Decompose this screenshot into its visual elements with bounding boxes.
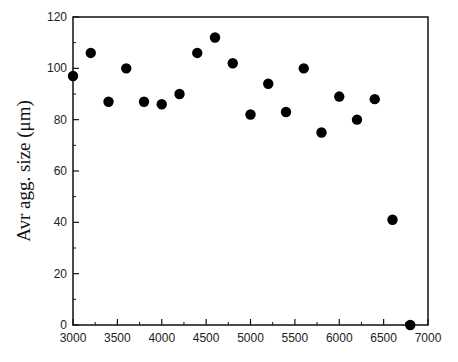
data-point (157, 99, 167, 109)
y-tick-label: 80 (54, 113, 68, 127)
data-point (387, 215, 397, 225)
plot-axes: 3000350040004500500055006000650070000204… (47, 10, 442, 345)
data-point (370, 94, 380, 104)
x-tick-label: 4500 (193, 331, 220, 345)
y-tick-label: 40 (54, 215, 68, 229)
data-point (68, 71, 78, 81)
x-tick-label: 6000 (326, 331, 353, 345)
data-point (281, 107, 291, 117)
y-tick-label: 20 (54, 267, 68, 281)
x-tick-label: 3000 (60, 331, 87, 345)
data-point (263, 79, 273, 89)
x-tick-label: 3500 (104, 331, 131, 345)
data-point (405, 320, 415, 330)
y-tick-label: 100 (47, 61, 67, 75)
data-point (139, 97, 149, 107)
data-point (174, 89, 184, 99)
y-tick-label: 60 (54, 164, 68, 178)
data-point (121, 63, 131, 73)
x-tick-label: 5000 (237, 331, 264, 345)
y-tick-label: 120 (47, 10, 67, 24)
x-tick-label: 7000 (415, 331, 442, 345)
x-tick-label: 4000 (148, 331, 175, 345)
data-point (228, 58, 238, 68)
scatter-chart: 3000350040004500500055006000650070000204… (0, 0, 458, 362)
data-point (86, 48, 96, 58)
data-point (245, 109, 255, 119)
y-axis-title: Avr agg. size (μm) (13, 100, 35, 242)
data-point (192, 48, 202, 58)
data-point (103, 97, 113, 107)
x-tick-label: 6500 (370, 331, 397, 345)
data-point (352, 114, 362, 124)
data-points (68, 32, 416, 330)
data-point (299, 63, 309, 73)
data-point (210, 32, 220, 42)
x-tick-label: 5500 (282, 331, 309, 345)
data-point (334, 91, 344, 101)
data-point (316, 127, 326, 137)
y-tick-label: 0 (60, 318, 67, 332)
